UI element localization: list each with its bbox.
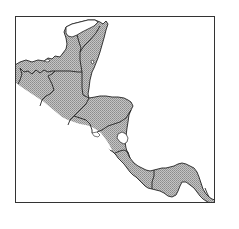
central-america-map bbox=[0, 0, 239, 229]
map-land-group bbox=[15, 20, 215, 203]
map-figure bbox=[0, 0, 239, 229]
